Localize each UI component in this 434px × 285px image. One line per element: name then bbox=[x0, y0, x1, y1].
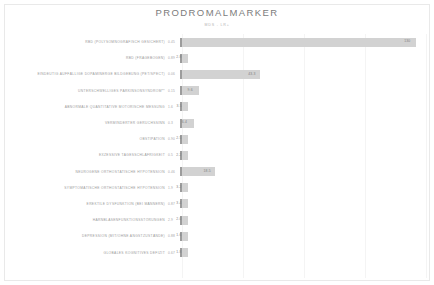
row-label: SYMPTOMATISCHE ORTHOSTATISCHE HYPOTENSIO… bbox=[0, 185, 168, 191]
bar-fill bbox=[182, 199, 188, 208]
chart-page: PRODROMALMARKER MDS - LR+ RBD (POLYSOMNO… bbox=[0, 0, 434, 285]
bar-end-value: 18.5 bbox=[204, 169, 211, 173]
row-label: HARNBLASENFUNKTIONSSTÖRUNGEN bbox=[0, 217, 168, 223]
bar-track: 2.8 bbox=[180, 54, 434, 63]
bar-track: 2.0 bbox=[180, 216, 434, 225]
bar-end-value: 3.4 bbox=[176, 201, 181, 205]
chart-row: EXZESSIVE TAGESSCHLÄFRIGKEIT0.52.2 bbox=[0, 147, 434, 163]
bar-fill bbox=[182, 232, 188, 241]
row-start-value: 0.06 bbox=[168, 72, 180, 76]
bar-track: 1.6 bbox=[180, 232, 434, 241]
chart-row: GLOBALES KOGNITIVES DEFIZIT0.671.8 bbox=[0, 244, 434, 260]
bar-end-value: 3.5 bbox=[177, 104, 182, 108]
row-label: ABNORMALE QUANTITATIVE MOTORISCHE MESSUN… bbox=[0, 104, 168, 110]
bar-end-value: 1.6 bbox=[176, 233, 181, 237]
bar-track: 3.2 bbox=[180, 183, 434, 192]
chart-row: OBSTIPATION0.902.5 bbox=[0, 131, 434, 147]
chart-subtitle: MDS - LR+ bbox=[0, 23, 434, 27]
row-label: RBD (FRAGEBOGEN) bbox=[0, 55, 168, 61]
chart-row: RBD (FRAGEBOGEN)0.892.8 bbox=[0, 50, 434, 66]
bar-end-value: 6.4 bbox=[182, 120, 187, 124]
page-title: PRODROMALMARKER bbox=[0, 7, 434, 18]
row-start-value: 0.45 bbox=[168, 40, 180, 44]
row-start-value: 0.3 bbox=[168, 121, 180, 125]
row-start-value: 0.15 bbox=[168, 89, 180, 93]
bar-end-value: 3.2 bbox=[176, 185, 181, 189]
row-start-value: 0.46 bbox=[168, 170, 180, 174]
row-label: GLOBALES KOGNITIVES DEFIZIT bbox=[0, 250, 168, 256]
bar-track: 1.8 bbox=[180, 248, 434, 257]
chart-row: EREKTILE DYSFUNKTION (BEI MÄNNERN)0.873.… bbox=[0, 196, 434, 212]
bar-track: 2.2 bbox=[180, 151, 434, 160]
bar-end-value: 130 bbox=[404, 39, 410, 43]
bar-end-value: 2.5 bbox=[176, 136, 181, 140]
bar-fill bbox=[182, 248, 188, 257]
row-label: VERMINDERTER GERUCHSSINN bbox=[0, 120, 168, 126]
bar-track: 3.5 bbox=[180, 102, 434, 111]
row-label: UNTERSCHWELLIGES PARKINSONSYNDROM** bbox=[0, 88, 168, 94]
row-label: EINDEUTIG AUFFÄLLIGE DOPAMINERGE BILDGEB… bbox=[0, 71, 168, 77]
row-label: EREKTILE DYSFUNKTION (BEI MÄNNERN) bbox=[0, 201, 168, 207]
chart-row: RBD (POLYSOMNOGRAFISCH GESICHERT)0.45130 bbox=[0, 34, 434, 50]
bar-end-value: 2.0 bbox=[176, 217, 181, 221]
row-label: NEUROGENE ORTHOSTATISCHE HYPOTENSION bbox=[0, 169, 168, 175]
bar-fill bbox=[182, 183, 188, 192]
bar-track: 130 bbox=[180, 38, 434, 47]
bar-end-value: 2.8 bbox=[176, 55, 181, 59]
bar-end-value: 9.6 bbox=[187, 88, 192, 92]
bar-chart: RBD (POLYSOMNOGRAFISCH GESICHERT)0.45130… bbox=[0, 34, 434, 278]
chart-row: ABNORMALE QUANTITATIVE MOTORISCHE MESSUN… bbox=[0, 99, 434, 115]
chart-row: SYMPTOMATISCHE ORTHOSTATISCHE HYPOTENSIO… bbox=[0, 180, 434, 196]
chart-row: VERMINDERTER GERUCHSSINN0.36.4 bbox=[0, 115, 434, 131]
bar-fill bbox=[182, 38, 416, 47]
bar-track: 9.6 bbox=[180, 86, 434, 95]
bar-track: 3.4 bbox=[180, 199, 434, 208]
row-label: EXZESSIVE TAGESSCHLÄFRIGKEIT bbox=[0, 152, 168, 158]
bar-fill bbox=[182, 135, 188, 144]
row-label: RBD (POLYSOMNOGRAFISCH GESICHERT) bbox=[0, 39, 168, 45]
chart-row: UNTERSCHWELLIGES PARKINSONSYNDROM**0.159… bbox=[0, 83, 434, 99]
chart-row: DEPRESSION (MIT/OHNE ANGSTZUSTÄNDE)0.881… bbox=[0, 228, 434, 244]
bar-fill bbox=[182, 151, 188, 160]
bar-fill bbox=[182, 54, 188, 63]
bar-track: 43.3 bbox=[180, 70, 434, 79]
bar-track: 6.4 bbox=[180, 119, 434, 128]
bar-end-value: 1.8 bbox=[176, 250, 181, 254]
chart-row: HARNBLASENFUNKTIONSSTÖRUNGEN2.92.0 bbox=[0, 212, 434, 228]
chart-row: EINDEUTIG AUFFÄLLIGE DOPAMINERGE BILDGEB… bbox=[0, 66, 434, 82]
bar-track: 2.5 bbox=[180, 135, 434, 144]
bar-track: 18.5 bbox=[180, 167, 434, 176]
chart-row: NEUROGENE ORTHOSTATISCHE HYPOTENSION0.46… bbox=[0, 164, 434, 180]
bar-end-value: 2.2 bbox=[176, 153, 181, 157]
bar-fill bbox=[182, 216, 188, 225]
bar-end-value: 43.3 bbox=[248, 72, 255, 76]
row-label: OBSTIPATION bbox=[0, 136, 168, 142]
row-label: DEPRESSION (MIT/OHNE ANGSTZUSTÄNDE) bbox=[0, 233, 168, 239]
bar-fill bbox=[182, 102, 188, 111]
